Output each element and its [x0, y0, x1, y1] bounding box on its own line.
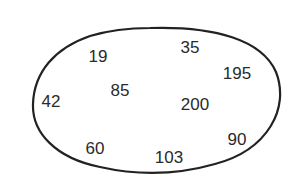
- element-19: 19: [89, 48, 108, 65]
- element-103: 103: [155, 149, 183, 166]
- element-60: 60: [86, 140, 105, 157]
- element-90: 90: [228, 131, 247, 148]
- set-oval-outline: [0, 0, 296, 181]
- set-diagram: 19 35 195 42 85 200 90 60 103: [0, 0, 296, 181]
- element-42: 42: [42, 93, 61, 110]
- element-195: 195: [223, 65, 251, 82]
- element-35: 35: [181, 39, 200, 56]
- element-200: 200: [181, 96, 209, 113]
- element-85: 85: [111, 82, 130, 99]
